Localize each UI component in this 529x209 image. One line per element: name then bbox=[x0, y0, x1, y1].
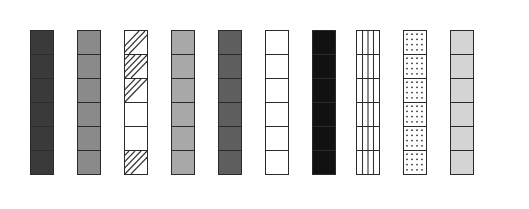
cell bbox=[78, 127, 100, 151]
cell bbox=[404, 127, 426, 151]
cell bbox=[313, 31, 335, 55]
cell bbox=[125, 151, 147, 174]
dots-pattern-icon bbox=[404, 103, 426, 126]
cell bbox=[172, 127, 194, 151]
column-5-solid-medium-dark bbox=[218, 30, 242, 175]
cell bbox=[266, 55, 288, 79]
cell bbox=[266, 103, 288, 127]
cell bbox=[125, 79, 147, 103]
column-1-solid-dark bbox=[30, 30, 54, 175]
cell bbox=[219, 79, 241, 103]
cell bbox=[31, 151, 53, 174]
dots-pattern-icon bbox=[404, 127, 426, 150]
cell bbox=[313, 79, 335, 103]
cell bbox=[219, 31, 241, 55]
cell bbox=[404, 151, 426, 174]
vertical-lines-icon bbox=[357, 151, 379, 174]
cell bbox=[313, 103, 335, 127]
column-4-solid-light-medium bbox=[171, 30, 195, 175]
cell bbox=[357, 79, 379, 103]
dots-pattern-icon bbox=[404, 151, 426, 174]
cell bbox=[404, 79, 426, 103]
cell bbox=[78, 151, 100, 174]
cell bbox=[31, 55, 53, 79]
cell bbox=[172, 31, 194, 55]
cell bbox=[78, 55, 100, 79]
cell bbox=[219, 103, 241, 127]
cell bbox=[357, 151, 379, 174]
cell bbox=[404, 31, 426, 55]
cell bbox=[266, 127, 288, 151]
cell bbox=[125, 103, 147, 127]
column-8-vertical-lines bbox=[356, 30, 380, 175]
diagonal-hatch-icon bbox=[125, 31, 147, 54]
cell bbox=[451, 31, 473, 55]
cell bbox=[31, 79, 53, 103]
cell bbox=[451, 55, 473, 79]
cell bbox=[451, 79, 473, 103]
cell bbox=[78, 103, 100, 127]
cell bbox=[451, 103, 473, 127]
column-3-partial-diagonal-hatch bbox=[124, 30, 148, 175]
cell bbox=[31, 103, 53, 127]
vertical-lines-icon bbox=[357, 55, 379, 78]
cell bbox=[313, 127, 335, 151]
dots-pattern-icon bbox=[404, 79, 426, 102]
cell bbox=[172, 103, 194, 127]
cell bbox=[219, 151, 241, 174]
cell bbox=[78, 31, 100, 55]
vertical-lines-icon bbox=[357, 31, 379, 54]
cell bbox=[125, 55, 147, 79]
cell bbox=[313, 55, 335, 79]
column-9-dots bbox=[403, 30, 427, 175]
cell bbox=[357, 127, 379, 151]
cell bbox=[313, 151, 335, 174]
cell bbox=[172, 79, 194, 103]
column-10-solid-light bbox=[450, 30, 474, 175]
cell bbox=[404, 55, 426, 79]
diagonal-hatch-icon bbox=[125, 55, 147, 78]
cell bbox=[451, 151, 473, 174]
vertical-lines-icon bbox=[357, 79, 379, 102]
cell bbox=[125, 31, 147, 55]
cell bbox=[357, 55, 379, 79]
cell bbox=[172, 55, 194, 79]
column-2-solid-medium bbox=[77, 30, 101, 175]
cell bbox=[31, 31, 53, 55]
cell bbox=[78, 79, 100, 103]
dots-pattern-icon bbox=[404, 55, 426, 78]
cell bbox=[125, 127, 147, 151]
diagonal-hatch-icon bbox=[125, 79, 147, 102]
cell bbox=[357, 103, 379, 127]
cell bbox=[219, 127, 241, 151]
vertical-lines-icon bbox=[357, 127, 379, 150]
cell bbox=[451, 127, 473, 151]
column-6-empty bbox=[265, 30, 289, 175]
cell bbox=[266, 31, 288, 55]
cell bbox=[266, 151, 288, 174]
cell bbox=[219, 55, 241, 79]
cell bbox=[172, 151, 194, 174]
cell bbox=[266, 79, 288, 103]
cell bbox=[31, 127, 53, 151]
column-7-solid-black bbox=[312, 30, 336, 175]
vertical-lines-icon bbox=[357, 103, 379, 126]
dots-pattern-icon bbox=[404, 31, 426, 54]
cell bbox=[357, 31, 379, 55]
diagonal-hatch-icon bbox=[125, 151, 147, 174]
cell bbox=[404, 103, 426, 127]
